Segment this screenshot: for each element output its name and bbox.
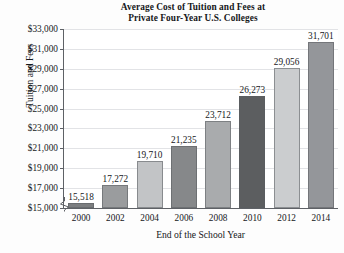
x-tick-label: 2002	[106, 213, 125, 223]
bar-value-label: 26,273	[240, 85, 266, 95]
y-tick-label: $29,000	[28, 64, 58, 74]
bar-slot: 15,518	[64, 29, 98, 208]
x-tick-label: 2006	[175, 213, 194, 223]
y-tick-label: $15,000	[28, 203, 58, 213]
bar-slot: 21,235	[167, 29, 201, 208]
bar-slot: 23,712	[201, 29, 235, 208]
bar-value-label: 29,056	[274, 57, 300, 67]
bar-value-label: 21,235	[171, 135, 197, 145]
bar[interactable]: 19,710	[137, 161, 163, 208]
y-tick-label: $19,000	[28, 163, 58, 173]
bar[interactable]: 29,056	[274, 68, 300, 208]
plot-area: $33,000$31,000$29,000$27,000$25,000$23,0…	[63, 29, 338, 209]
bar[interactable]: 21,235	[171, 146, 197, 208]
y-tick-label: $17,000	[28, 183, 58, 193]
y-tick-label: $27,000	[28, 84, 58, 94]
bar-slot: 19,710	[133, 29, 167, 208]
bar[interactable]: 31,701	[308, 42, 334, 208]
chart-title-line-1: Average Cost of Tuition and Fees at	[48, 2, 338, 13]
bar-slot: 17,272	[98, 29, 132, 208]
bar[interactable]: 23,712	[205, 121, 231, 208]
y-tick-label: $33,000	[28, 24, 58, 34]
y-tick-label: $23,000	[28, 123, 58, 133]
y-tick-label: $25,000	[28, 104, 58, 114]
bar-chart-figure: Average Cost of Tuition and Fees at Priv…	[0, 0, 344, 253]
bar[interactable]: 15,518	[68, 203, 94, 208]
chart-title: Average Cost of Tuition and Fees at Priv…	[48, 2, 338, 25]
bar[interactable]: 26,273	[239, 96, 265, 208]
y-tick-label: $31,000	[28, 44, 58, 54]
y-tick-label: $21,000	[28, 143, 58, 153]
x-tick-label: 2000	[72, 213, 91, 223]
x-tick-label: 2010	[243, 213, 262, 223]
x-tick-label: 2008	[209, 213, 228, 223]
bars-group: 15,51817,27219,71021,23523,71226,27329,0…	[64, 29, 338, 208]
x-tick-label: 2014	[312, 213, 331, 223]
bar-value-label: 17,272	[103, 174, 129, 184]
bar-slot: 26,273	[235, 29, 269, 208]
x-tick-label: 2012	[277, 213, 296, 223]
bar[interactable]: 17,272	[102, 185, 128, 208]
bar-value-label: 19,710	[137, 150, 163, 160]
bar-value-label: 23,712	[205, 110, 231, 120]
bar-value-label: 31,701	[308, 31, 334, 41]
x-tick-label: 2004	[140, 213, 159, 223]
bar-value-label: 15,518	[68, 192, 94, 202]
x-axis-title: End of the School Year	[63, 229, 338, 240]
bar-slot: 31,701	[304, 29, 338, 208]
bar-slot: 29,056	[270, 29, 304, 208]
chart-title-line-2: Private Four-Year U.S. Colleges	[48, 13, 338, 24]
